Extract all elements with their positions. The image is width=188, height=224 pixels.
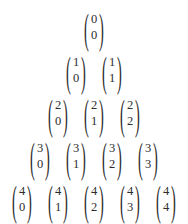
right-paren-icon: ) <box>153 135 158 178</box>
right-paren-icon: ) <box>117 49 122 92</box>
binomial-n: 4 <box>91 184 97 199</box>
binomial-stack: 42 <box>91 184 97 215</box>
right-paren-icon: ) <box>99 178 104 221</box>
binomial-coefficient: (42) <box>76 180 112 220</box>
binomial-coefficient: (44) <box>148 180 184 220</box>
binomial-k: 1 <box>73 157 79 172</box>
binomial-k: 2 <box>91 200 97 215</box>
binomial-stack: 33 <box>145 141 151 172</box>
binomial-n: 1 <box>109 55 115 70</box>
right-paren-icon: ) <box>117 135 122 178</box>
binomial-n: 1 <box>73 55 79 70</box>
binomial-n: 3 <box>73 141 79 156</box>
triangle-row: (20)(21)(22) <box>40 93 148 134</box>
binomial-stack: 22 <box>127 98 133 129</box>
left-paren-icon: ( <box>84 92 89 135</box>
left-paren-icon: ( <box>12 178 17 221</box>
binomial-stack: 44 <box>163 184 169 215</box>
binomial-k: 4 <box>163 200 169 215</box>
binomial-stack: 20 <box>55 98 61 129</box>
binomial-n: 4 <box>127 184 133 199</box>
binomial-coefficient: (10) <box>58 51 94 91</box>
binomial-n: 4 <box>19 184 25 199</box>
left-paren-icon: ( <box>66 49 71 92</box>
binomial-k: 0 <box>19 200 25 215</box>
binomial-stack: 00 <box>91 12 97 43</box>
triangle-row: (00) <box>76 7 112 48</box>
triangle-row: (10)(11) <box>58 50 130 91</box>
right-paren-icon: ) <box>45 135 50 178</box>
left-paren-icon: ( <box>48 92 53 135</box>
binomial-k: 2 <box>109 157 115 172</box>
binomial-coefficient: (22) <box>112 94 148 134</box>
left-paren-icon: ( <box>102 49 107 92</box>
binomial-stack: 40 <box>19 184 25 215</box>
left-paren-icon: ( <box>66 135 71 178</box>
left-paren-icon: ( <box>102 135 107 178</box>
binomial-k: 1 <box>91 114 97 129</box>
right-paren-icon: ) <box>63 178 68 221</box>
pascals-triangle: (00)(10)(11)(20)(21)(22)(30)(31)(32)(33)… <box>0 0 188 224</box>
binomial-n: 2 <box>127 98 133 113</box>
binomial-n: 2 <box>55 98 61 113</box>
binomial-coefficient: (11) <box>94 51 130 91</box>
right-paren-icon: ) <box>99 92 104 135</box>
binomial-coefficient: (00) <box>76 8 112 48</box>
binomial-n: 2 <box>91 98 97 113</box>
binomial-coefficient: (30) <box>22 137 58 177</box>
binomial-n: 3 <box>109 141 115 156</box>
binomial-coefficient: (20) <box>40 94 76 134</box>
left-paren-icon: ( <box>138 135 143 178</box>
right-paren-icon: ) <box>135 178 140 221</box>
binomial-stack: 11 <box>109 55 115 86</box>
binomial-k: 1 <box>109 71 115 86</box>
binomial-coefficient: (43) <box>112 180 148 220</box>
right-paren-icon: ) <box>81 135 86 178</box>
binomial-coefficient: (33) <box>130 137 166 177</box>
binomial-n: 4 <box>55 184 61 199</box>
binomial-n: 4 <box>163 184 169 199</box>
right-paren-icon: ) <box>171 178 176 221</box>
left-paren-icon: ( <box>120 178 125 221</box>
left-paren-icon: ( <box>48 178 53 221</box>
binomial-coefficient: (31) <box>58 137 94 177</box>
right-paren-icon: ) <box>27 178 32 221</box>
binomial-k: 3 <box>145 157 151 172</box>
binomial-k: 0 <box>73 71 79 86</box>
binomial-stack: 31 <box>73 141 79 172</box>
binomial-k: 0 <box>91 28 97 43</box>
left-paren-icon: ( <box>30 135 35 178</box>
right-paren-icon: ) <box>81 49 86 92</box>
binomial-coefficient: (40) <box>4 180 40 220</box>
binomial-k: 0 <box>55 114 61 129</box>
binomial-k: 1 <box>55 200 61 215</box>
binomial-stack: 10 <box>73 55 79 86</box>
right-paren-icon: ) <box>135 92 140 135</box>
right-paren-icon: ) <box>63 92 68 135</box>
binomial-coefficient: (32) <box>94 137 130 177</box>
binomial-n: 3 <box>145 141 151 156</box>
binomial-stack: 30 <box>37 141 43 172</box>
binomial-k: 3 <box>127 200 133 215</box>
left-paren-icon: ( <box>120 92 125 135</box>
left-paren-icon: ( <box>84 6 89 49</box>
binomial-stack: 32 <box>109 141 115 172</box>
binomial-coefficient: (21) <box>76 94 112 134</box>
binomial-stack: 41 <box>55 184 61 215</box>
binomial-n: 0 <box>91 12 97 27</box>
binomial-k: 2 <box>127 114 133 129</box>
triangle-row: (30)(31)(32)(33) <box>22 136 166 177</box>
binomial-k: 0 <box>37 157 43 172</box>
binomial-coefficient: (41) <box>40 180 76 220</box>
left-paren-icon: ( <box>84 178 89 221</box>
right-paren-icon: ) <box>99 6 104 49</box>
binomial-n: 3 <box>37 141 43 156</box>
triangle-row: (40)(41)(42)(43)(44) <box>4 179 184 220</box>
binomial-stack: 43 <box>127 184 133 215</box>
left-paren-icon: ( <box>156 178 161 221</box>
binomial-stack: 21 <box>91 98 97 129</box>
